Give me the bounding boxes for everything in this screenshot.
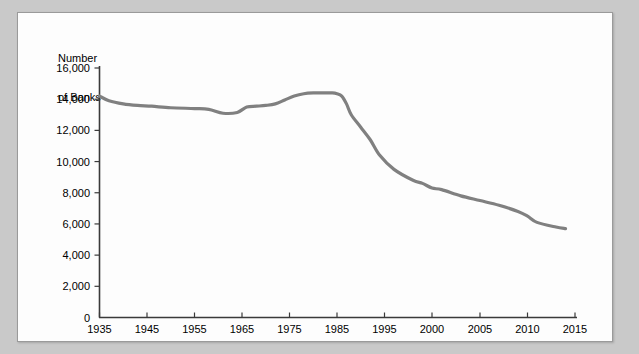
chart-axes bbox=[95, 66, 578, 318]
y-axis-tick-label: 12,000 bbox=[44, 124, 90, 136]
y-axis-tick-label: 16,000 bbox=[44, 62, 90, 74]
x-axis-tick-label: 1975 bbox=[270, 323, 310, 335]
x-axis-tick-label: 1985 bbox=[317, 323, 357, 335]
y-axis-tick-label: 6,000 bbox=[44, 218, 90, 230]
y-axis-tick-label: 10,000 bbox=[44, 156, 90, 168]
x-axis-tick-label: 2000 bbox=[412, 323, 452, 335]
x-axis-tick-label: 1965 bbox=[222, 323, 262, 335]
chart-plot-area bbox=[0, 0, 639, 354]
x-axis-tick-label: 2010 bbox=[508, 323, 548, 335]
y-axis-tick-label: 2,000 bbox=[44, 280, 90, 292]
x-axis-tick-label: 1995 bbox=[365, 323, 405, 335]
x-axis-tick-label: 2005 bbox=[460, 323, 500, 335]
x-axis-tick-label: 1955 bbox=[175, 323, 215, 335]
x-axis-tick-label: 1945 bbox=[127, 323, 167, 335]
figure-container: Number of Banks 02,0004,0006,0008,00010,… bbox=[0, 0, 639, 354]
x-axis-tick-label: 1935 bbox=[80, 323, 120, 335]
y-axis-tick-label: 8,000 bbox=[44, 187, 90, 199]
y-axis-tick-label: 14,000 bbox=[44, 93, 90, 105]
x-axis-tick-label: 2015 bbox=[555, 323, 595, 335]
y-axis-tick-label: 4,000 bbox=[44, 249, 90, 261]
data-series-line bbox=[100, 93, 566, 229]
